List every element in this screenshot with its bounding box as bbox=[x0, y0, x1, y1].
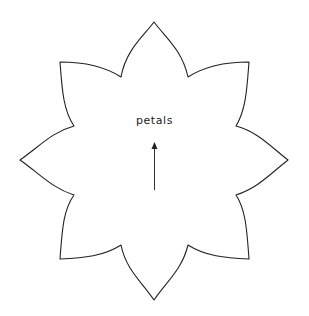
petals-label: petals bbox=[0, 114, 309, 127]
flower-diagram bbox=[0, 0, 309, 316]
